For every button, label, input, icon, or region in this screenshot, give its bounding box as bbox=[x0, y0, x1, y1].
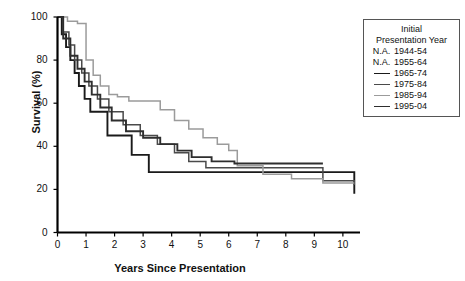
legend-entry-label: 1955-64 bbox=[394, 57, 427, 68]
y-tick-label: 80 bbox=[18, 54, 48, 65]
y-tick-label: 0 bbox=[18, 227, 48, 238]
legend-entry-label: 1995-04 bbox=[394, 101, 427, 112]
x-tick-label: 6 bbox=[214, 239, 244, 250]
legend-line-icon bbox=[374, 106, 390, 107]
legend-line-icon bbox=[374, 84, 390, 85]
legend-line-swatch bbox=[373, 101, 390, 112]
x-tick-label: 5 bbox=[185, 239, 215, 250]
legend-entry: N.A.1944-54 bbox=[366, 46, 457, 57]
x-tick-label: 0 bbox=[43, 239, 73, 250]
curves-group bbox=[58, 17, 355, 194]
survival-curve-1975-84 bbox=[58, 17, 355, 185]
legend-line-icon bbox=[374, 95, 390, 96]
legend-entry: 1975-84 bbox=[366, 79, 457, 90]
legend-title-line2: Presentation Year bbox=[366, 35, 457, 46]
y-tick-label: 100 bbox=[18, 11, 48, 22]
x-tick-label: 9 bbox=[299, 239, 329, 250]
legend-line-swatch bbox=[373, 68, 390, 79]
x-tick-label: 8 bbox=[271, 239, 301, 250]
x-axis-label: Years Since Presentation bbox=[30, 262, 330, 274]
legend-na-marker: N.A. bbox=[373, 46, 390, 57]
axes-group bbox=[54, 17, 361, 237]
x-tick-label: 10 bbox=[328, 239, 358, 250]
x-tick-label: 1 bbox=[71, 239, 101, 250]
y-tick-label: 40 bbox=[18, 140, 48, 151]
survival-chart-figure: Survival (%) Years Since Presentation 01… bbox=[0, 0, 465, 281]
x-tick-label: 4 bbox=[157, 239, 187, 250]
legend: Initial Presentation Year N.A.1944-54N.A… bbox=[363, 19, 460, 117]
legend-entry: 1965-74 bbox=[366, 68, 457, 79]
legend-entry: 1995-04 bbox=[366, 101, 457, 112]
x-tick-label: 7 bbox=[242, 239, 272, 250]
legend-entry-label: 1985-94 bbox=[394, 90, 427, 101]
survival-curve-1985-94 bbox=[58, 17, 355, 183]
legend-na-marker: N.A. bbox=[373, 57, 390, 68]
legend-entry-label: 1975-84 bbox=[394, 79, 427, 90]
legend-line-swatch bbox=[373, 90, 390, 101]
legend-entries: N.A.1944-54N.A.1955-641965-741975-841985… bbox=[366, 46, 457, 112]
y-tick-label: 60 bbox=[18, 97, 48, 108]
legend-entry: N.A.1955-64 bbox=[366, 57, 457, 68]
legend-entry: 1985-94 bbox=[366, 90, 457, 101]
x-tick-label: 2 bbox=[100, 239, 130, 250]
legend-title-line1: Initial bbox=[366, 24, 457, 35]
legend-entry-label: 1965-74 bbox=[394, 68, 427, 79]
x-tick-label: 3 bbox=[128, 239, 158, 250]
legend-line-swatch bbox=[373, 79, 390, 90]
y-tick-label: 20 bbox=[18, 183, 48, 194]
legend-line-icon bbox=[374, 73, 390, 74]
legend-entry-label: 1944-54 bbox=[394, 46, 427, 57]
